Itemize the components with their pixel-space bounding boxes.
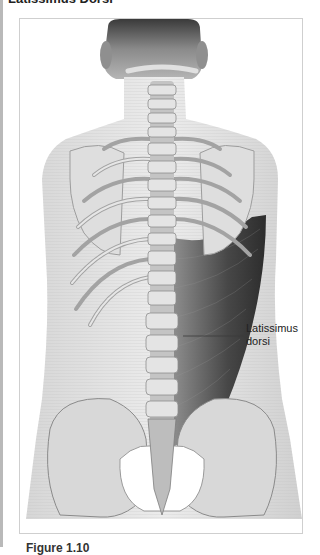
- label-line-2: dorsi: [246, 335, 298, 348]
- anatomy-illustration: [20, 19, 304, 535]
- label-line-1: Latissimus: [246, 322, 298, 335]
- page-edge-bar: [0, 0, 3, 547]
- latissimus-dorsi-label: Latissimus dorsi: [246, 322, 298, 348]
- section-title: Latissimus Dorsi: [8, 0, 113, 6]
- figure-frame: Latissimus dorsi: [19, 18, 303, 534]
- figure-caption: Figure 1.10: [26, 541, 89, 555]
